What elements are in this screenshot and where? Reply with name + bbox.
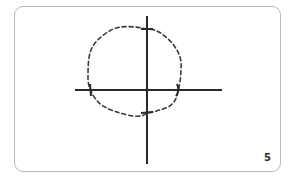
dashed-closed-curve <box>88 27 181 117</box>
tick-left <box>90 84 91 96</box>
page-number: 5 <box>264 152 271 163</box>
diagram-figure <box>0 0 297 182</box>
origin-point <box>145 88 149 92</box>
tick-bottom <box>141 112 153 113</box>
